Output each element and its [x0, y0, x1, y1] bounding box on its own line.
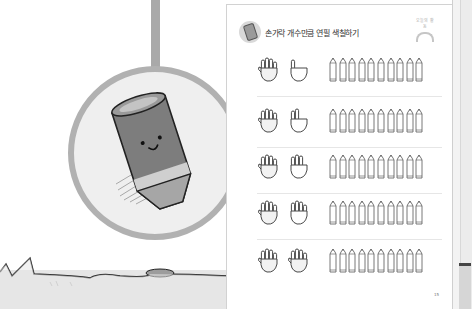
- pencil-outline-icon[interactable]: [396, 57, 404, 83]
- pencil-outline-icon[interactable]: [406, 57, 414, 83]
- pencil-outline-icon[interactable]: [367, 108, 375, 134]
- pencil-outline-icon[interactable]: [415, 154, 423, 180]
- row-divider: [257, 96, 442, 97]
- pencil-outline-icon[interactable]: [329, 200, 337, 226]
- pencil-outline-icon[interactable]: [415, 57, 423, 83]
- hand-one-finger-icon: [287, 57, 311, 83]
- page-number: 15: [434, 292, 439, 297]
- worksheet-row: [257, 147, 449, 187]
- pencil-outline-icon[interactable]: [387, 57, 395, 83]
- pencil-badge-icon: [239, 21, 261, 43]
- hand-five-fingers-icon: [257, 57, 281, 83]
- worksheet-row: [257, 241, 449, 281]
- pencil-group: [329, 248, 423, 274]
- pencil-outline-icon[interactable]: [358, 248, 366, 274]
- pencil-outline-icon[interactable]: [377, 108, 385, 134]
- rainbow-icon: [416, 32, 434, 42]
- pencil-outline-icon[interactable]: [367, 57, 375, 83]
- hand-three-fingers-icon: [287, 154, 311, 180]
- pencil-outline-icon[interactable]: [367, 154, 375, 180]
- pencil-outline-icon[interactable]: [339, 248, 347, 274]
- pencil-outline-icon[interactable]: [358, 200, 366, 226]
- pencil-outline-icon[interactable]: [396, 200, 404, 226]
- worksheet-row: [257, 193, 449, 233]
- pencil-outline-icon[interactable]: [415, 108, 423, 134]
- pencil-outline-icon[interactable]: [348, 108, 356, 134]
- pencil-outline-icon[interactable]: [339, 154, 347, 180]
- hand-two-fingers-icon: [287, 108, 311, 134]
- pencil-character-icon: [74, 72, 236, 234]
- worksheet-row: [257, 101, 449, 141]
- pencil-outline-icon[interactable]: [406, 248, 414, 274]
- worksheet-row: [257, 50, 449, 90]
- corner-badge: 오늘의 활동: [415, 17, 435, 41]
- pencil-outline-icon[interactable]: [329, 108, 337, 134]
- pencil-outline-icon[interactable]: [358, 154, 366, 180]
- pencil-outline-icon[interactable]: [348, 57, 356, 83]
- pencil-outline-icon[interactable]: [329, 248, 337, 274]
- pencil-outline-icon[interactable]: [377, 154, 385, 180]
- pencil-outline-icon[interactable]: [329, 57, 337, 83]
- pencil-outline-icon[interactable]: [387, 154, 395, 180]
- pencil-outline-icon[interactable]: [367, 248, 375, 274]
- book-cover-bottom: [459, 265, 471, 309]
- hand-five-fingers-icon: [257, 200, 281, 226]
- pencil-group: [329, 154, 423, 180]
- worksheet-header: 손가락 개수만큼 연필 색칠하기: [239, 21, 359, 43]
- pencil-outline-icon[interactable]: [358, 57, 366, 83]
- pencil-outline-icon[interactable]: [396, 248, 404, 274]
- ground-line-icon: [0, 246, 228, 286]
- pencil-outline-icon[interactable]: [406, 154, 414, 180]
- pencil-group: [329, 108, 423, 134]
- worksheet-title: 손가락 개수만큼 연필 색칠하기: [265, 27, 359, 38]
- pencil-group: [329, 200, 423, 226]
- pencil-outline-icon[interactable]: [387, 108, 395, 134]
- hanging-rod: [151, 0, 160, 72]
- row-divider: [257, 239, 442, 240]
- pencil-outline-icon[interactable]: [329, 154, 337, 180]
- illustration-circle: [68, 66, 242, 240]
- pencil-outline-icon[interactable]: [415, 248, 423, 274]
- pencil-outline-icon[interactable]: [396, 154, 404, 180]
- pencil-outline-icon[interactable]: [348, 154, 356, 180]
- pencil-outline-icon[interactable]: [406, 108, 414, 134]
- pencil-outline-icon[interactable]: [377, 248, 385, 274]
- pencil-outline-icon[interactable]: [415, 200, 423, 226]
- pencil-group: [329, 57, 423, 83]
- corner-label: 오늘의 활동: [415, 17, 435, 29]
- pencil-outline-icon[interactable]: [358, 108, 366, 134]
- pencil-outline-icon[interactable]: [387, 200, 395, 226]
- hand-five-fingers-icon: [257, 154, 281, 180]
- hand-five-fingers-icon: [257, 108, 281, 134]
- pencil-outline-icon[interactable]: [367, 200, 375, 226]
- worksheet-page: 손가락 개수만큼 연필 색칠하기 오늘의 활동: [226, 4, 452, 309]
- pencil-outline-icon[interactable]: [348, 248, 356, 274]
- pencil-outline-icon[interactable]: [406, 200, 414, 226]
- book-mark: [459, 263, 471, 266]
- pencil-outline-icon[interactable]: [348, 200, 356, 226]
- pencil-outline-icon[interactable]: [377, 200, 385, 226]
- pencil-outline-icon[interactable]: [339, 57, 347, 83]
- pencil-outline-icon[interactable]: [339, 108, 347, 134]
- hand-four-fingers-icon: [287, 200, 311, 226]
- pencil-outline-icon[interactable]: [387, 248, 395, 274]
- hand-five-fingers-icon: [287, 248, 311, 274]
- pencil-outline-icon[interactable]: [377, 57, 385, 83]
- pencil-outline-icon[interactable]: [396, 108, 404, 134]
- hand-five-fingers-icon: [257, 248, 281, 274]
- pencil-outline-icon[interactable]: [339, 200, 347, 226]
